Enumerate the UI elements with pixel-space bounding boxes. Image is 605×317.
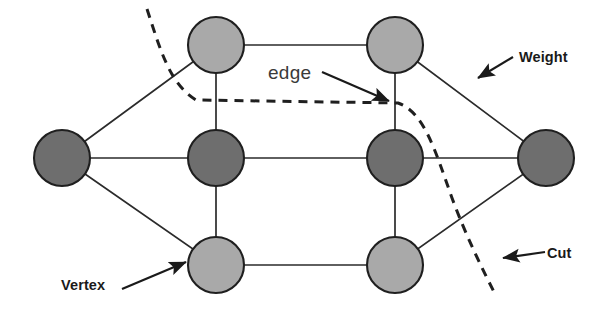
- annotation-label-cut: Cut: [547, 245, 571, 261]
- vertex-top-left[interactable]: [188, 17, 244, 73]
- vertex-bottom-left[interactable]: [188, 237, 244, 293]
- annotation-label-weight: Weight: [519, 49, 568, 65]
- vertex-mid-left[interactable]: [188, 130, 244, 186]
- graph-diagram-canvas: [0, 0, 605, 317]
- graph-cut-figure: edge Weight Cut Vertex: [0, 0, 605, 317]
- edge-callout-arrow: [322, 72, 389, 101]
- vertex-mid-far-left[interactable]: [34, 130, 90, 186]
- annotation-arrow-layer: [122, 57, 545, 289]
- cut-callout-arrow: [503, 252, 545, 258]
- vertex-callout-arrow: [122, 262, 186, 289]
- annotation-label-vertex: Vertex: [61, 277, 105, 293]
- vertex-bottom-right[interactable]: [367, 237, 423, 293]
- vertex-mid-right[interactable]: [367, 130, 423, 186]
- weight-callout-arrow: [478, 57, 513, 78]
- vertex-mid-far-right[interactable]: [518, 130, 574, 186]
- vertex-layer: [34, 17, 574, 293]
- vertex-top-right[interactable]: [367, 17, 423, 73]
- annotation-label-edge: edge: [268, 62, 311, 84]
